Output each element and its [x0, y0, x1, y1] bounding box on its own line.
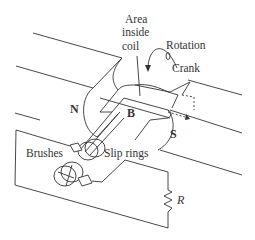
label-south: S — [170, 127, 177, 141]
resistor-icon — [164, 190, 172, 212]
label-north: N — [70, 102, 79, 116]
label-resistor: R — [176, 193, 185, 207]
brushes — [70, 143, 92, 186]
label-coil: coil — [122, 40, 139, 52]
label-brushes: Brushes — [26, 147, 64, 159]
label-area: Area — [125, 13, 147, 25]
generator-diagram: Area inside coil Rotation Crank N B S Br… — [0, 0, 255, 240]
label-inside: inside — [122, 26, 149, 38]
label-crank: Crank — [172, 62, 200, 74]
label-field-b: B — [127, 106, 135, 120]
north-pole-magnet — [84, 58, 122, 137]
area-leader — [137, 56, 140, 96]
label-rotation: Rotation — [166, 39, 206, 51]
label-slip-rings: Slip rings — [104, 147, 149, 160]
